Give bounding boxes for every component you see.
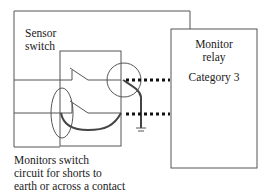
ground-icon xyxy=(136,128,146,131)
caption: Monitors switch circuit for shorts to ea… xyxy=(14,154,125,193)
sensor-label-line2: switch xyxy=(25,40,56,53)
caption-line1: Monitors switch xyxy=(14,154,125,167)
relay-label-line2: relay xyxy=(171,51,257,64)
relay-category: Category 3 xyxy=(171,71,257,84)
monitor-relay-label: Monitor relay Category 3 xyxy=(171,38,257,84)
monitor-wire xyxy=(61,113,121,130)
sensor-label-line1: Sensor xyxy=(25,27,56,40)
caption-line2: circuit for shorts to xyxy=(14,167,125,180)
lower-contact xyxy=(14,101,121,113)
caption-line3: earth or across a contact xyxy=(14,180,125,193)
upper-contact xyxy=(14,68,121,80)
sensor-switch-label: Sensor switch xyxy=(25,27,56,53)
diagram-canvas: Sensor switch Monitor relay Category 3 M… xyxy=(0,0,272,196)
monitor-wire-upper xyxy=(123,80,141,128)
relay-label-line1: Monitor xyxy=(171,38,257,51)
